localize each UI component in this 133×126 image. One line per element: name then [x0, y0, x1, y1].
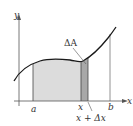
delta-a-label: ΔA	[64, 38, 77, 48]
b-label: b	[108, 102, 114, 112]
delta-strip	[81, 58, 88, 101]
a-label: a	[31, 104, 36, 114]
x-dx-leader	[88, 102, 92, 111]
x-label: x	[78, 102, 83, 112]
area-region	[33, 59, 81, 101]
area-diagram: y x ΔA a x b x + Δx	[0, 0, 133, 126]
x-plus-dx-label: x + Δx	[76, 113, 106, 123]
x-axis-label: x	[127, 96, 132, 106]
y-axis-label: y	[13, 10, 20, 20]
